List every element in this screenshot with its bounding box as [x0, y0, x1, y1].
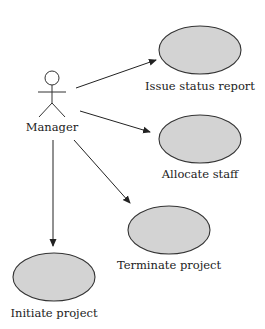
association-allocate-staff[interactable]	[80, 111, 150, 132]
actor-label: Manager	[26, 120, 79, 134]
use-case-ellipse	[159, 115, 241, 163]
actor-right-leg	[52, 103, 65, 117]
actor-manager[interactable]: Manager	[26, 71, 79, 134]
actor-left-leg	[39, 103, 52, 117]
use-case-ellipse	[159, 26, 241, 74]
use-case-label: Terminate project	[117, 258, 222, 272]
association-issue-status-report[interactable]	[76, 60, 156, 88]
use-case-label: Issue status report	[145, 79, 255, 93]
use-case-diagram: Manager Issue status report Allocate sta…	[0, 0, 265, 329]
use-case-ellipse	[128, 206, 210, 254]
use-case-label: Initiate project	[10, 306, 97, 320]
use-case-terminate-project[interactable]: Terminate project	[117, 206, 222, 272]
use-case-allocate-staff[interactable]: Allocate staff	[159, 115, 241, 181]
use-case-ellipse	[13, 253, 95, 301]
actor-head	[45, 71, 59, 85]
use-case-issue-status-report[interactable]: Issue status report	[145, 26, 255, 93]
use-case-label: Allocate staff	[161, 167, 239, 181]
association-terminate-project[interactable]	[74, 140, 130, 203]
use-case-initiate-project[interactable]: Initiate project	[10, 253, 97, 320]
